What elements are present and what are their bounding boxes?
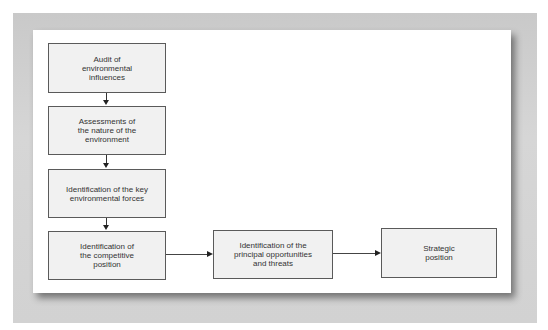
connector-line — [333, 253, 375, 254]
arrow-down-icon — [103, 225, 109, 230]
box-label: Audit of environmental influences — [75, 55, 139, 82]
box-label: Identification of the competitive positi… — [75, 242, 139, 269]
box-strategic-position: Strategic position — [381, 228, 497, 278]
box-audit-environmental-influences: Audit of environmental influences — [48, 43, 166, 93]
arrow-down-icon — [103, 100, 109, 105]
arrow-down-icon — [103, 163, 109, 168]
box-label: Identification of the principal opportun… — [228, 241, 318, 268]
connector-line — [166, 254, 207, 255]
connector-line — [106, 155, 107, 163]
box-competitive-position: Identification of the competitive positi… — [48, 231, 166, 280]
box-label: Identification of the key environmental … — [65, 185, 149, 203]
box-label: Assessments of the nature of the environ… — [74, 117, 140, 144]
box-opportunities-threats: Identification of the principal opportun… — [213, 230, 333, 279]
box-label: Strategic position — [417, 244, 461, 262]
box-assessments-nature-environment: Assessments of the nature of the environ… — [48, 106, 166, 155]
box-key-environmental-forces: Identification of the key environmental … — [48, 169, 166, 218]
